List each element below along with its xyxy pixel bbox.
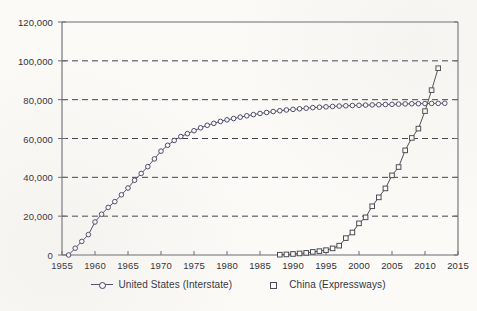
data-point-marker bbox=[198, 126, 203, 131]
data-point-marker bbox=[403, 102, 408, 107]
data-point-marker bbox=[337, 243, 342, 248]
data-point-marker bbox=[311, 250, 316, 255]
data-point-marker bbox=[317, 105, 322, 110]
data-point-marker bbox=[251, 112, 256, 117]
legend-item-united-states: United States (Interstate) bbox=[91, 279, 232, 290]
data-point-marker bbox=[350, 230, 355, 235]
data-point-marker bbox=[337, 104, 342, 109]
data-point-marker bbox=[390, 173, 395, 178]
data-point-marker bbox=[357, 103, 362, 108]
legend-marker-circle-icon bbox=[91, 280, 113, 290]
data-point-marker bbox=[113, 199, 118, 204]
data-point-marker bbox=[344, 236, 349, 241]
data-point-marker bbox=[159, 149, 164, 154]
data-point-marker bbox=[165, 143, 170, 148]
x-tick-label: 2000 bbox=[348, 260, 370, 271]
data-point-marker bbox=[363, 215, 368, 220]
x-tick-label: 1995 bbox=[315, 260, 337, 271]
data-point-marker bbox=[396, 102, 401, 107]
data-point-marker bbox=[370, 204, 375, 209]
data-point-marker bbox=[410, 101, 415, 106]
data-point-marker bbox=[330, 104, 335, 109]
data-point-marker bbox=[297, 106, 302, 111]
data-point-marker bbox=[330, 246, 335, 251]
data-point-marker bbox=[324, 248, 329, 253]
data-point-marker bbox=[264, 110, 269, 115]
data-point-marker bbox=[304, 251, 309, 256]
data-point-marker bbox=[284, 252, 289, 257]
data-point-marker bbox=[245, 113, 250, 118]
data-point-marker bbox=[80, 239, 85, 244]
x-tick-label: 1975 bbox=[183, 260, 205, 271]
legend-label-china: China (Expressways) bbox=[289, 279, 385, 290]
x-tick-label: 1990 bbox=[282, 260, 304, 271]
data-point-marker bbox=[396, 165, 401, 170]
x-tick-label: 1970 bbox=[150, 260, 172, 271]
x-tick-label: 2015 bbox=[447, 260, 469, 271]
data-point-marker bbox=[390, 102, 395, 107]
data-point-marker bbox=[238, 115, 243, 120]
x-tick-label: 1955 bbox=[51, 260, 73, 271]
data-point-marker bbox=[304, 106, 309, 111]
y-tick-label: 120,000 bbox=[0, 17, 53, 28]
data-point-marker bbox=[297, 251, 302, 256]
data-point-marker bbox=[370, 103, 375, 108]
y-tick-label: 80,000 bbox=[0, 94, 53, 105]
data-point-marker bbox=[218, 119, 223, 124]
data-point-marker bbox=[317, 249, 322, 254]
data-point-marker bbox=[357, 221, 362, 226]
x-tick-label: 1965 bbox=[117, 260, 139, 271]
y-tick-label: 20,000 bbox=[0, 211, 53, 222]
data-point-marker bbox=[139, 171, 144, 176]
data-point-marker bbox=[146, 164, 151, 169]
x-tick-label: 1960 bbox=[84, 260, 106, 271]
data-point-marker bbox=[363, 103, 368, 108]
data-point-marker bbox=[416, 101, 421, 106]
data-point-marker bbox=[311, 105, 316, 110]
data-point-marker bbox=[416, 126, 421, 131]
data-point-marker bbox=[152, 157, 157, 162]
data-point-marker bbox=[350, 103, 355, 108]
data-point-marker bbox=[443, 101, 448, 106]
y-tick-label: 100,000 bbox=[0, 55, 53, 66]
data-point-marker bbox=[205, 123, 210, 128]
data-point-marker bbox=[212, 121, 217, 126]
data-point-marker bbox=[423, 109, 428, 114]
data-point-marker bbox=[185, 131, 190, 136]
data-point-marker bbox=[231, 116, 236, 121]
data-point-marker bbox=[192, 128, 197, 133]
x-tick-label: 2005 bbox=[381, 260, 403, 271]
data-point-marker bbox=[436, 101, 441, 106]
legend-item-china: China (Expressways) bbox=[262, 279, 385, 290]
data-point-marker bbox=[99, 212, 104, 217]
y-tick-label: 0 bbox=[0, 250, 53, 261]
data-point-marker bbox=[73, 246, 78, 251]
series-line-china bbox=[280, 68, 438, 255]
legend-marker-square-icon bbox=[262, 280, 284, 290]
chart-container: 020,00040,00060,00080,000100,000120,000 … bbox=[0, 0, 477, 311]
data-point-marker bbox=[278, 108, 283, 113]
data-point-marker bbox=[86, 232, 91, 237]
chart-legend: United States (Interstate) China (Expres… bbox=[0, 279, 477, 290]
x-tick-label: 2010 bbox=[414, 260, 436, 271]
data-point-marker bbox=[172, 138, 177, 143]
legend-label-united-states: United States (Interstate) bbox=[118, 279, 232, 290]
data-point-marker bbox=[284, 108, 289, 113]
data-point-marker bbox=[291, 252, 296, 257]
data-point-marker bbox=[324, 105, 329, 110]
data-point-marker bbox=[429, 101, 434, 106]
data-point-marker bbox=[106, 205, 111, 210]
data-point-marker bbox=[278, 252, 283, 257]
data-point-marker bbox=[126, 186, 131, 191]
data-point-marker bbox=[383, 186, 388, 191]
data-point-marker bbox=[291, 107, 296, 112]
data-point-marker bbox=[258, 111, 263, 116]
data-point-marker bbox=[403, 148, 408, 153]
x-tick-label: 1980 bbox=[216, 260, 238, 271]
data-point-marker bbox=[93, 220, 98, 225]
data-point-marker bbox=[377, 102, 382, 107]
data-point-marker bbox=[410, 136, 415, 141]
data-point-marker bbox=[344, 103, 349, 108]
data-point-marker bbox=[119, 193, 124, 198]
data-point-marker bbox=[66, 253, 71, 258]
